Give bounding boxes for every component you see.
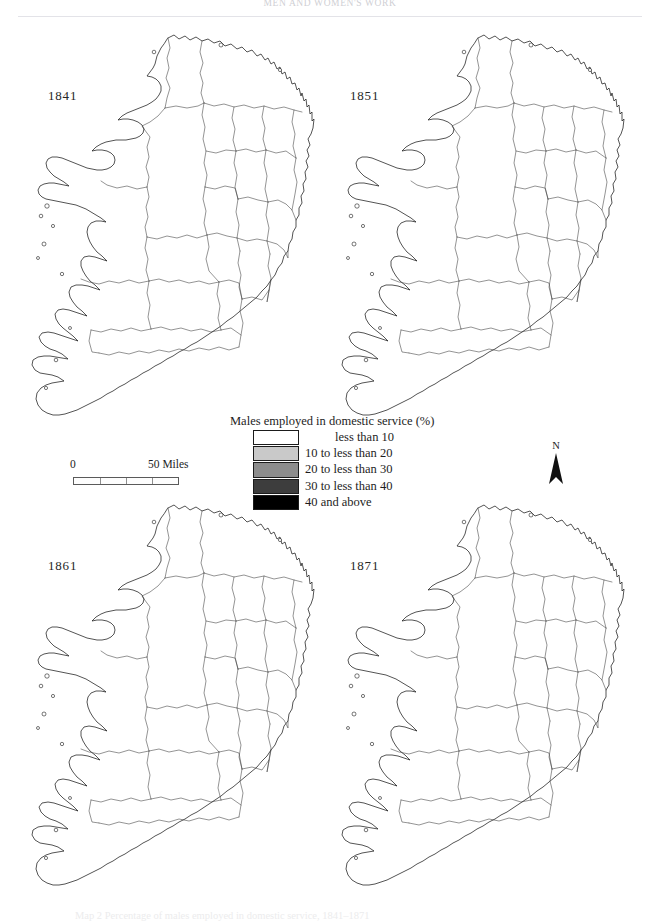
north-arrow: N — [543, 440, 569, 490]
legend-swatch-1 — [253, 446, 299, 461]
legend-label-1: 10 to less than 20 — [305, 446, 393, 461]
legend-row-1: 10 to less than 20 — [228, 445, 443, 461]
legend-label-0: less than 10 — [335, 430, 394, 445]
legend-swatch-2 — [253, 462, 299, 477]
north-arrow-icon — [546, 452, 566, 486]
legend-title: Males employed in domestic service (%) — [230, 414, 443, 429]
legend-row-2: 20 to less than 30 — [228, 462, 443, 478]
scale-bar-zero-label: 0 — [70, 458, 76, 470]
scale-bar: 0 50 Miles — [70, 458, 190, 473]
north-arrow-label: N — [543, 440, 569, 451]
legend-row-3: 30 to less than 40 — [228, 478, 443, 494]
header-rule — [18, 16, 642, 17]
map-panel-1841: 1841 — [18, 30, 323, 420]
running-head: MEN AND WOMEN'S WORK — [0, 0, 660, 8]
map-panel-1861: 1861 — [18, 500, 323, 890]
map-year-label-1861: 1861 — [48, 558, 77, 574]
legend-row-0: less than 10 — [228, 429, 443, 445]
legend-label-2: 20 to less than 30 — [305, 462, 393, 477]
map-year-label-1851: 1851 — [350, 88, 379, 104]
legend-label-4: 40 and above — [305, 495, 372, 510]
map-legend: Males employed in domestic service (%) l… — [228, 414, 443, 511]
map-panel-1851: 1851 — [328, 30, 633, 420]
legend-swatch-0 — [253, 430, 299, 445]
map-year-label-1871: 1871 — [350, 558, 379, 574]
figure-caption: Map 2 Percentage of males employed in do… — [75, 910, 595, 921]
legend-swatch-4 — [253, 495, 299, 510]
scale-bar-graphic — [73, 477, 179, 485]
map-panel-1871: 1871 — [328, 500, 633, 890]
map-year-label-1841: 1841 — [48, 88, 77, 104]
legend-row-4: 40 and above — [228, 495, 443, 511]
legend-swatch-3 — [253, 479, 299, 494]
scale-bar-labels: 0 50 Miles — [70, 458, 190, 473]
legend-label-3: 30 to less than 40 — [305, 479, 393, 494]
scale-bar-max-label: 50 Miles — [148, 458, 189, 470]
